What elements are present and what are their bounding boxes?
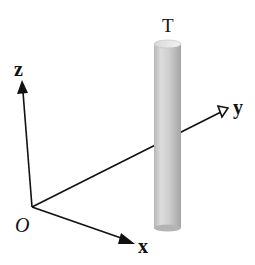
cylinder-label: T bbox=[162, 15, 174, 36]
diagram-canvas: T z y O x bbox=[0, 0, 255, 265]
cylinder-t bbox=[154, 40, 181, 232]
y-axis bbox=[32, 106, 228, 207]
z-axis bbox=[17, 80, 32, 207]
x-axis-arrowhead-icon bbox=[118, 233, 135, 244]
x-axis-label: x bbox=[138, 235, 148, 257]
y-axis-label: y bbox=[233, 96, 243, 119]
y-axis-arrowhead-icon bbox=[218, 106, 228, 117]
x-axis bbox=[32, 207, 135, 244]
z-axis-label: z bbox=[14, 58, 23, 80]
z-axis-arrowhead-icon bbox=[17, 80, 28, 94]
origin-label: O bbox=[15, 214, 29, 236]
coordinate-diagram: T z y O x bbox=[0, 0, 255, 265]
